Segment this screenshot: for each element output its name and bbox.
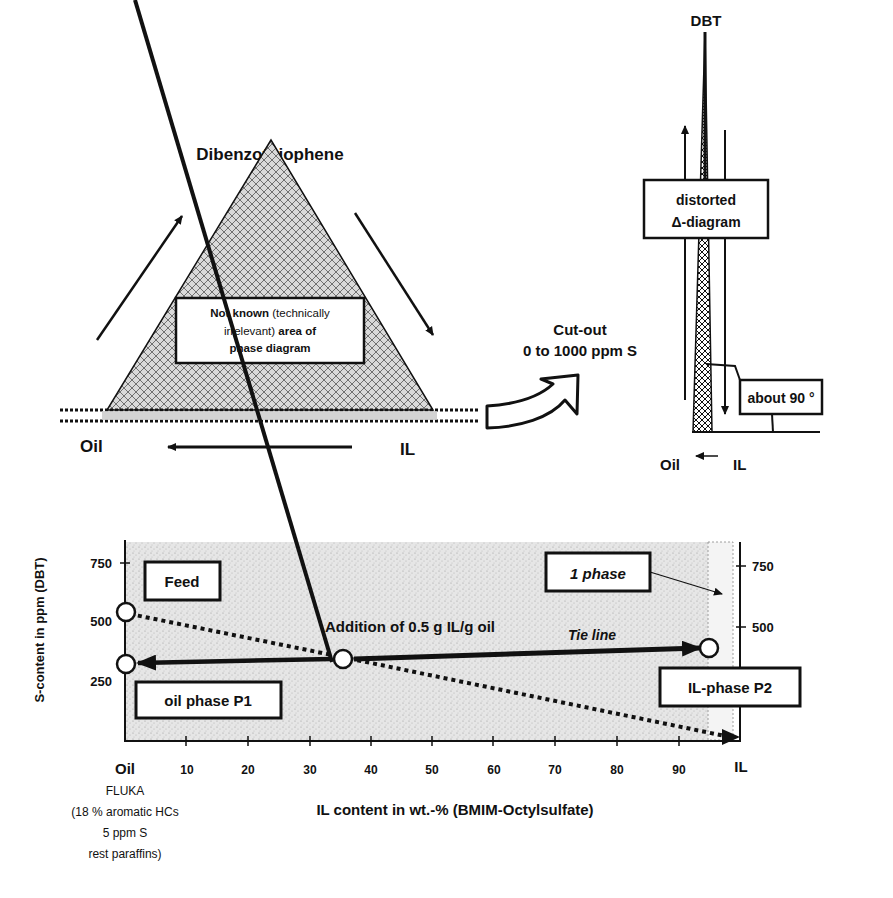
x-tick-80: 80: [610, 763, 624, 777]
y-tick-750: 750: [90, 556, 112, 571]
y-tick-500: 500: [90, 614, 112, 629]
not-known-line2: irrelevant) area of: [224, 325, 316, 337]
x-tick-10: 10: [180, 763, 194, 777]
x-tick-il: IL: [734, 758, 747, 775]
x-tick-70: 70: [548, 763, 562, 777]
angle-tick: [772, 414, 773, 432]
distorted-il-label: IL: [733, 456, 746, 473]
mixture-point: [334, 650, 352, 668]
feed-point: [117, 603, 135, 621]
il-phase-point: [700, 639, 718, 657]
triangle-shape: [107, 140, 433, 410]
oil-phase-point: [117, 655, 135, 673]
x-tick-40: 40: [364, 763, 378, 777]
il-label: IL: [400, 440, 415, 459]
cutout-line1: Cut-out: [553, 321, 606, 338]
oil-note-line2: (18 % aromatic HCs: [71, 805, 178, 819]
il-phase-label: IL-phase P2: [688, 679, 772, 696]
y-tick-250: 250: [90, 674, 112, 689]
distorted-oil-label: Oil: [660, 456, 680, 473]
y-tick-right-500: 500: [752, 620, 774, 635]
y-tick-right-750: 750: [752, 559, 774, 574]
oil-note-line3: 5 ppm S: [103, 826, 148, 840]
x-tick-20: 20: [241, 763, 255, 777]
oil-phase-label: oil phase P1: [164, 692, 252, 709]
cutout-annotation: Cut-out 0 to 1000 ppm S: [487, 321, 637, 428]
distorted-box-line2: Δ-diagram: [671, 214, 740, 230]
x-tick-90: 90: [672, 763, 686, 777]
dbt-label: DBT: [691, 12, 722, 29]
y-axis-label: S-content in ppm (DBT): [32, 557, 47, 702]
x-tick-30: 30: [303, 763, 317, 777]
x-tick-50: 50: [425, 763, 439, 777]
tie-line-label: Tie line: [568, 627, 616, 643]
figure-canvas: Dibenzothiophene Not known (technically …: [0, 0, 893, 898]
x-tick-oil: Oil: [115, 760, 135, 777]
angle-label: about 90 °: [747, 390, 814, 406]
one-phase-label: 1 phase: [570, 565, 626, 582]
cutout-line2: 0 to 1000 ppm S: [523, 342, 637, 359]
distorted-box-line1: distorted: [676, 192, 736, 208]
curved-arrow-icon: [487, 375, 578, 428]
x-tick-60: 60: [487, 763, 501, 777]
oil-label: Oil: [80, 437, 103, 456]
triangle-phase-diagram: Dibenzothiophene Not known (technically …: [60, 140, 480, 459]
distorted-diagram: DBT distorted Δ-diagram about 90 ° Oil I…: [644, 12, 822, 473]
oil-note-line1: FLUKA: [106, 784, 145, 798]
addition-label: Addition of 0.5 g IL/g oil: [325, 618, 495, 635]
x-axis-label: IL content in wt.-% (BMIM-Octylsulfate): [316, 801, 593, 818]
feed-label: Feed: [164, 573, 199, 590]
oil-note-line4: rest paraffins): [88, 847, 161, 861]
base-band-fill: [102, 411, 437, 420]
